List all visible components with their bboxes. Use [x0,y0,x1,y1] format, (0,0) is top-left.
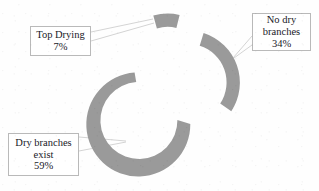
callout-dry-branches-exist-percent: 59% [34,160,53,172]
slice-dry-branches-exist [86,73,190,177]
callout-top-drying-percent: 7% [54,41,68,53]
callout-dry-branches-exist: Dry branches exist 59% [8,133,79,176]
callout-no-dry-branches-line1: No dry [267,14,296,26]
leader-lines-top-drying [91,19,154,41]
callout-dry-branches-exist-line2: exist [34,149,54,161]
callout-no-dry-branches: No dry branches 34% [252,13,311,51]
leader-line-top-drying-upper [91,19,153,32]
callout-dry-branches-exist-line1: Dry branches [15,137,71,149]
callout-no-dry-branches-percent: 34% [272,38,291,50]
slice-no-dry-branches [200,33,240,111]
callout-no-dry-branches-line2: branches [263,26,300,38]
chart-figure: Top Drying 7% No dry branches 34% Dry br… [0,0,319,191]
callout-top-drying: Top Drying 7% [30,26,91,56]
slice-top-drying [153,14,179,29]
leader-lines-no-dry-branches [233,36,252,58]
callout-top-drying-name: Top Drying [36,29,85,41]
